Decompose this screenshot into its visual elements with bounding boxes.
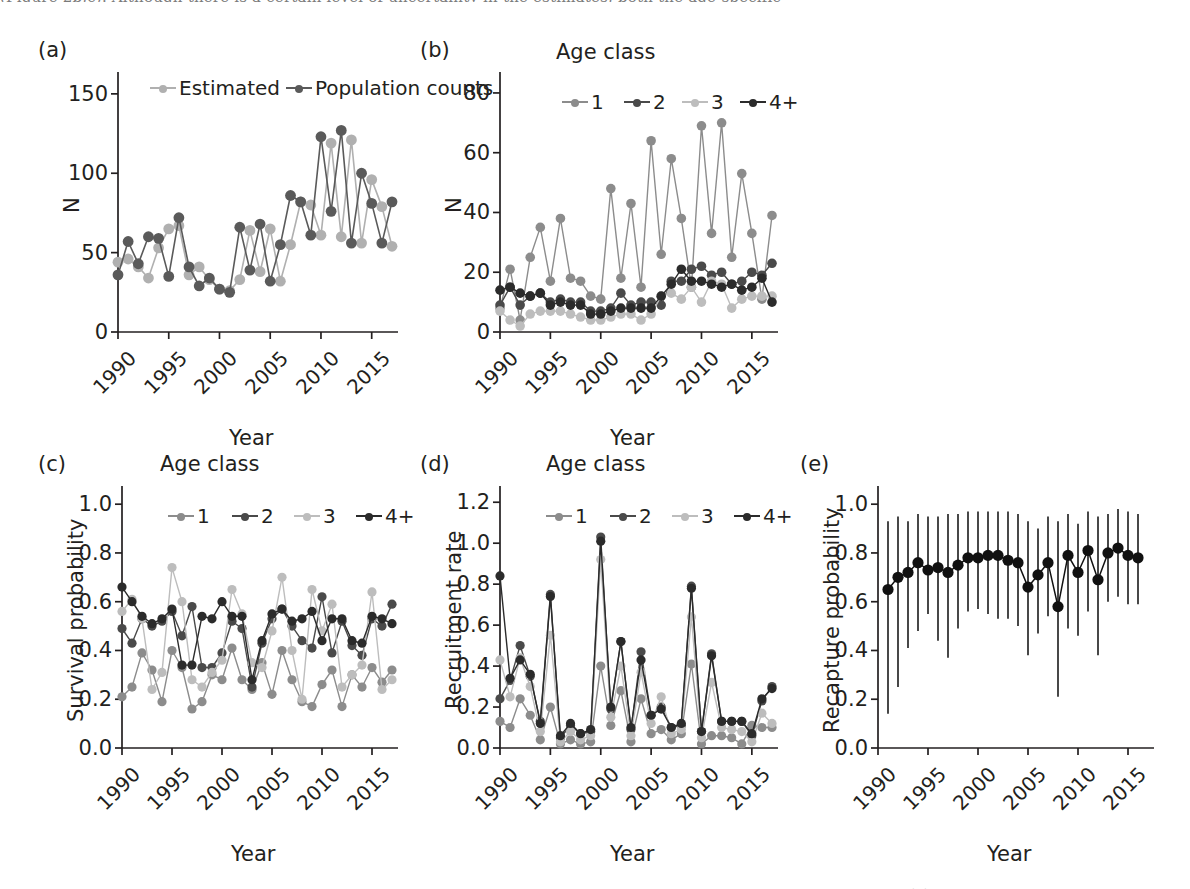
data-point <box>882 584 893 595</box>
data-point <box>942 567 953 578</box>
data-point <box>1032 569 1043 580</box>
data-point <box>962 552 973 563</box>
data-point <box>1122 550 1133 561</box>
data-point <box>1112 542 1123 553</box>
plot-area-e <box>0 0 1190 889</box>
data-point <box>1022 581 1033 592</box>
data-point <box>1042 557 1053 568</box>
data-point <box>1012 557 1023 568</box>
data-point <box>1072 567 1083 578</box>
data-point <box>932 562 943 573</box>
data-point <box>902 567 913 578</box>
data-point <box>922 564 933 575</box>
data-point <box>892 572 903 583</box>
data-point <box>1062 550 1073 561</box>
data-point <box>912 557 923 568</box>
data-point <box>982 550 993 561</box>
data-point <box>1082 545 1093 556</box>
data-point <box>972 552 983 563</box>
data-point <box>992 550 1003 561</box>
data-point <box>952 560 963 571</box>
data-point <box>1002 555 1013 566</box>
data-point <box>1052 601 1063 612</box>
data-point <box>1092 574 1103 585</box>
data-point <box>1102 547 1113 558</box>
data-point <box>1132 552 1143 563</box>
